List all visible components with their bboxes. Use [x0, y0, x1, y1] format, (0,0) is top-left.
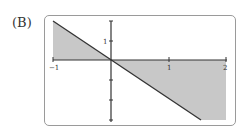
graph: −1 1 2 1 — [0, 0, 247, 128]
x-tick-label-1: 1 — [167, 64, 171, 72]
x-tick-label-2: 2 — [223, 64, 227, 72]
x-tick-label-neg1: −1 — [49, 64, 59, 72]
y-tick-label-1: 1 — [103, 38, 107, 46]
